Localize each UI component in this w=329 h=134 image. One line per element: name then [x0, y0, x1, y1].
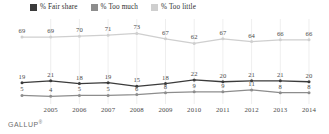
- x-axis-tick-label: 2011: [216, 106, 230, 113]
- data-point: [193, 90, 196, 93]
- data-point: [221, 90, 224, 93]
- data-value-label: 73: [133, 23, 140, 30]
- data-value-label: 9: [192, 82, 195, 89]
- brand-label: GALLUP: [8, 121, 39, 128]
- data-point: [21, 36, 24, 39]
- trademark-symbol: ®: [39, 120, 43, 125]
- data-value-label: 19: [19, 73, 26, 80]
- data-point: [308, 91, 311, 94]
- data-value-label: 15: [133, 76, 140, 83]
- data-point: [107, 81, 110, 84]
- data-value-label: 21: [277, 71, 284, 78]
- x-axis-tick-label: 2005: [44, 106, 58, 113]
- data-value-label: 66: [277, 30, 284, 37]
- data-point: [49, 95, 52, 98]
- data-value-label: 5: [20, 85, 23, 92]
- data-point: [250, 40, 253, 43]
- data-value-label: 9: [221, 82, 224, 89]
- data-point: [308, 38, 311, 41]
- chart-legend: % Fair share% Too much% Too little: [30, 3, 196, 11]
- data-point: [221, 37, 224, 40]
- legend-swatch-square: [30, 4, 37, 11]
- x-axis-tick-label: 2006: [72, 106, 86, 113]
- data-value-label: 66: [306, 30, 313, 37]
- x-axis-tick-label: 2008: [130, 106, 144, 113]
- data-value-label: 71: [105, 25, 112, 32]
- data-value-label: 8: [279, 83, 282, 90]
- legend-swatch-square: [91, 4, 98, 11]
- data-value-label: 5: [78, 85, 81, 92]
- data-value-label: 21: [248, 71, 255, 78]
- data-value-label: 62: [191, 33, 198, 40]
- data-value-label: 4: [49, 86, 52, 93]
- data-point: [279, 38, 282, 41]
- legend-item-label: % Fair share: [40, 3, 78, 11]
- data-value-label: 19: [105, 73, 112, 80]
- data-value-label: 11: [248, 80, 255, 87]
- x-axis-tick-label: 2009: [158, 106, 172, 113]
- x-axis-tick-label: 2007: [101, 106, 115, 113]
- x-axis-tick-label: 2012: [244, 106, 258, 113]
- data-point: [279, 91, 282, 94]
- data-point: [135, 93, 138, 96]
- data-value-label: 70: [76, 26, 83, 33]
- data-point: [164, 37, 167, 40]
- legend-item-label: % Too little: [161, 3, 196, 11]
- data-point: [78, 94, 81, 97]
- chart-container: % Fair share% Too much% Too little 20052…: [0, 0, 329, 134]
- data-value-label: 8: [164, 83, 167, 90]
- data-point: [250, 88, 253, 91]
- data-value-label: 20: [219, 72, 226, 79]
- x-axis-tick-label: 2010: [187, 106, 201, 113]
- source-brand: GALLUP®: [8, 120, 42, 128]
- legend-item-label: % Too much: [101, 3, 139, 11]
- data-value-label: 5: [106, 85, 109, 92]
- data-point: [78, 35, 81, 38]
- data-point: [135, 32, 138, 35]
- x-axis: 2005200620072008200920102011201220132014: [8, 106, 321, 118]
- data-value-label: 67: [162, 29, 169, 36]
- data-value-label: 69: [19, 27, 26, 34]
- data-point: [49, 79, 52, 82]
- data-value-label: 22: [191, 70, 198, 77]
- data-value-label: 64: [248, 32, 255, 39]
- data-point: [164, 91, 167, 94]
- data-point: [107, 94, 110, 97]
- data-point: [107, 34, 110, 37]
- data-value-label: 8: [307, 83, 310, 90]
- data-point: [49, 36, 52, 39]
- data-value-label: 20: [306, 72, 313, 79]
- data-value-label: 67: [219, 29, 226, 36]
- data-value-label: 18: [76, 74, 83, 81]
- data-value-label: 18: [162, 74, 169, 81]
- data-value-label: 69: [47, 27, 54, 34]
- x-axis-tick-label: 2013: [273, 106, 287, 113]
- legend-item: % Too much: [91, 3, 139, 11]
- legend-item: % Fair share: [30, 3, 78, 11]
- legend-swatch-square: [151, 4, 158, 11]
- data-value-label: 21: [47, 71, 54, 78]
- data-point: [21, 81, 24, 84]
- legend-item: % Too little: [151, 3, 196, 11]
- x-axis-tick-label: 2014: [302, 106, 316, 113]
- data-point: [21, 94, 24, 97]
- data-value-label: 6: [135, 85, 138, 92]
- data-point: [193, 42, 196, 45]
